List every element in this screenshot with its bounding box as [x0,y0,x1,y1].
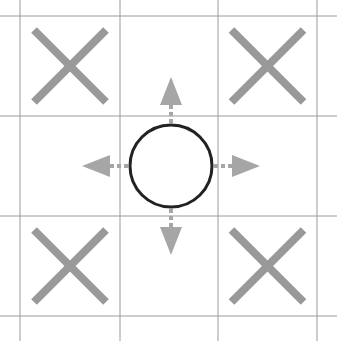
x-mark [232,30,304,102]
x-mark [232,230,304,302]
arrow-head [82,155,110,177]
x-mark [34,30,106,102]
arrow-head [232,155,260,177]
marks [34,30,304,302]
arrow-head [160,77,182,105]
arrow-head [160,227,182,255]
arrow-right-icon [214,155,260,177]
x-mark [34,230,106,302]
tic-tac-toe-diagram [0,0,337,341]
arrow-left-icon [82,155,128,177]
o-mark [130,125,212,207]
